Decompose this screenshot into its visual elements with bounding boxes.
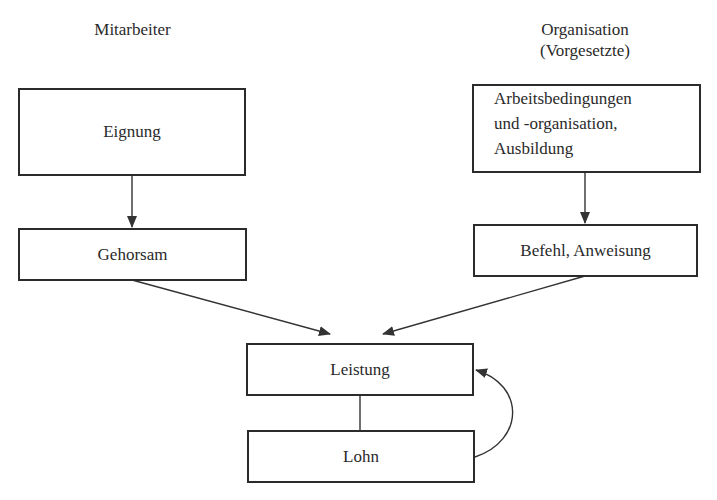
node-lohn: Lohn [247,430,475,483]
arrow-befehl-leistung [383,276,585,334]
node-gehorsam: Gehorsam [18,228,247,281]
header-organisation-line2: (Vorgesetzte) [510,40,660,61]
node-arbeitsbedingungen-line1: Arbeitsbedingungen [494,86,632,111]
node-befehl-anweisung: Befehl, Anweisung [473,224,698,277]
node-eignung: Eignung [18,88,246,176]
header-organisation-line1: Organisation [510,19,660,40]
header-mitarbeiter: Mitarbeiter [60,19,205,40]
node-arbeitsbedingungen-line2: und -organisation, [494,111,617,136]
node-leistung: Leistung [246,343,474,396]
arrow-lohn-leistung [475,370,513,457]
node-arbeitsbedingungen-line3: Ausbildung [494,136,573,161]
header-organisation: Organisation (Vorgesetzte) [510,19,660,61]
node-arbeitsbedingungen: Arbeitsbedingungen und -organisation, Au… [472,84,701,173]
arrow-gehorsam-leistung [132,280,330,334]
